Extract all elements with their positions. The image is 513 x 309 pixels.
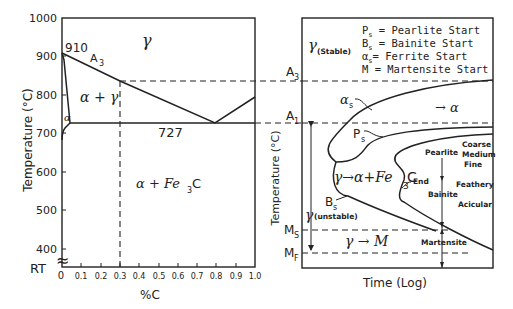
label-alpha-s: α (340, 92, 349, 107)
y-tick: 600 (36, 166, 57, 179)
label-acicular: Acicular (458, 200, 492, 209)
label-pearlite: Pearlite (425, 148, 458, 157)
x-tick: 1.0 (249, 272, 262, 281)
x-tick: 0.9 (230, 272, 243, 281)
x-axis-label: %C (140, 288, 160, 302)
y-axis-label: Temperature (°C) (21, 88, 35, 193)
svg-text:S: S (294, 231, 299, 240)
label-910: 910 (65, 41, 88, 55)
alpha-boundary (62, 53, 70, 140)
label-to-alpha: → α (435, 100, 459, 115)
label-alpha-gamma: α + γ (80, 89, 119, 105)
y-tick: 1000 (29, 12, 57, 25)
x-tick: 0.7 (191, 272, 204, 281)
label-bainite: Bainite (428, 190, 458, 199)
figure: 1000 900 800 700 600 500 400 RT ≈ (0, 0, 513, 309)
svg-text:1: 1 (294, 117, 299, 126)
svg-text:s: s (349, 101, 353, 110)
y-tick: 400 (36, 243, 57, 256)
label-coarse: Coarse (462, 140, 491, 149)
svg-text:F: F (294, 254, 299, 263)
x-tick: 0.2 (95, 272, 108, 281)
legend: Ps = Pearlite Start Bs = Bainite Start α… (362, 24, 488, 75)
x-tick: 0.5 (153, 272, 166, 281)
level-ms: M (284, 223, 294, 237)
x-tick: 0.8 (210, 272, 223, 281)
label-gamma-stable: γ (308, 36, 317, 54)
svg-text:3: 3 (99, 59, 104, 68)
y-tick: 500 (36, 204, 57, 217)
svg-text:(Stable): (Stable) (317, 47, 351, 56)
label-feathery: Feathery (456, 180, 494, 189)
label-medium: Medium (462, 150, 496, 159)
x-tick: 0.4 (133, 272, 146, 281)
x-tick: 0.6 (172, 272, 185, 281)
phase-diagram: 1000 900 800 700 600 500 400 RT ≈ (21, 12, 261, 302)
x-axis-ticks: 0 0.1 0.2 0.3 0.4 0.5 0.6 0.7 0.8 0.9 1.… (58, 263, 262, 281)
x-tick: 0.1 (75, 272, 88, 281)
svg-text:s: s (333, 203, 337, 212)
y-tick: 700 (36, 127, 57, 140)
ttt-diagram: A 3 A 1 M S M F Temperature (°C) Time (L… (269, 18, 496, 290)
legend-item: M = Martensite Start (362, 63, 488, 75)
label-gamma: γ (142, 31, 152, 50)
ttt-x-axis-label: Time (Log) (362, 276, 427, 290)
label-gamma-to-m: γ → M (345, 233, 389, 249)
label-a3: A (90, 52, 98, 65)
label-martensite: Martensite (421, 238, 467, 247)
y-tick: 800 (36, 89, 57, 102)
svg-text:s: s (361, 135, 365, 144)
label-gamma-unstable: γ (305, 207, 314, 223)
y-axis-ticks: 1000 900 800 700 600 500 400 RT ≈ (29, 12, 69, 276)
x-tick: 0.3 (114, 272, 127, 281)
label-bs: B (325, 195, 333, 209)
label-alpha: α (64, 112, 71, 123)
label-end: End (413, 177, 429, 186)
svg-text:C: C (192, 176, 201, 191)
y-tick: 900 (36, 50, 57, 63)
label-fine: Fine (464, 160, 482, 169)
svg-text:(unstable): (unstable) (314, 212, 358, 221)
level-mf: M (284, 246, 294, 260)
rt-label: RT (30, 261, 46, 276)
svg-text:3: 3 (294, 73, 299, 82)
label-727: 727 (158, 125, 183, 140)
label-gamma-to-alpha-fe3c: γ→α+Fe (334, 169, 393, 185)
x-tick: 0 (58, 270, 64, 281)
label-alpha-fe3c: α + Fe (136, 176, 180, 191)
ttt-y-axis-label: Temperature (°C) (269, 131, 282, 227)
label-ps: P (353, 127, 360, 141)
axis-break-icon: ≈ (56, 251, 69, 270)
